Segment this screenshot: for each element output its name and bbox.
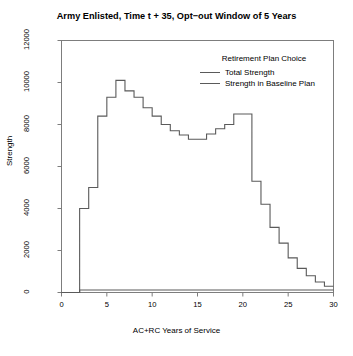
chart-container: Army Enlisted, Time t + 35, Opt−out Wind… [0,0,353,356]
x-tick-label-5: 25 [274,300,302,309]
legend-item-total-strength: Total Strength [196,68,332,77]
series-line-total-strength [62,80,334,292]
legend-label-total-strength: Total Strength [225,68,274,77]
x-tick-label-4: 20 [229,300,257,309]
x-tick-label-1: 5 [93,300,121,309]
legend-label-baseline-plan: Strength in Baseline Plan [225,79,315,88]
legend-line-swatch-baseline-plan [200,83,220,84]
legend-item-baseline-plan: Strength in Baseline Plan [196,79,332,88]
x-tick-label-2: 10 [138,300,166,309]
x-tick-label-0: 0 [48,300,76,309]
chart-legend: Retirement Plan Choice Total Strength St… [196,54,332,90]
x-tick-label-6: 30 [320,300,348,309]
legend-title: Retirement Plan Choice [196,54,332,63]
x-tick-label-3: 15 [184,300,212,309]
legend-line-swatch-total-strength [200,72,220,73]
y-tick-label-6: 12000 [22,13,31,65]
